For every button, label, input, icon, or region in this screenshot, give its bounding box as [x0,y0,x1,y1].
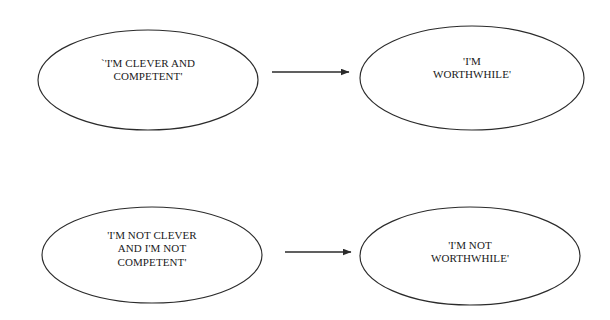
node-ellipse-positive-belief[interactable] [38,30,258,130]
node-ellipse-negative-outcome[interactable] [360,207,580,305]
diagram-canvas: `'I'M CLEVER AND COMPETENT' 'I'M WORTHWH… [0,0,610,320]
node-ellipse-positive-outcome[interactable] [360,26,584,130]
node-ellipse-negative-belief[interactable] [42,207,262,303]
diagram-vector-layer [0,0,610,320]
